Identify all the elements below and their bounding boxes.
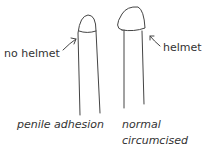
right-figure-outline: [118, 7, 146, 108]
no-helmet-label: no helmet: [4, 47, 60, 60]
normal-circumcised-caption: normal circumcised penis: [122, 117, 222, 152]
caption-line-1: normal circumcised: [122, 117, 222, 149]
helmet-arrow: [150, 36, 160, 46]
penile-adhesion-caption: penile adhesion: [17, 117, 104, 133]
no-helmet-arrow: [63, 38, 76, 50]
caption-line-2: penis: [122, 149, 222, 152]
left-figure-outline: [78, 15, 100, 115]
helmet-label: helmet: [163, 41, 202, 54]
